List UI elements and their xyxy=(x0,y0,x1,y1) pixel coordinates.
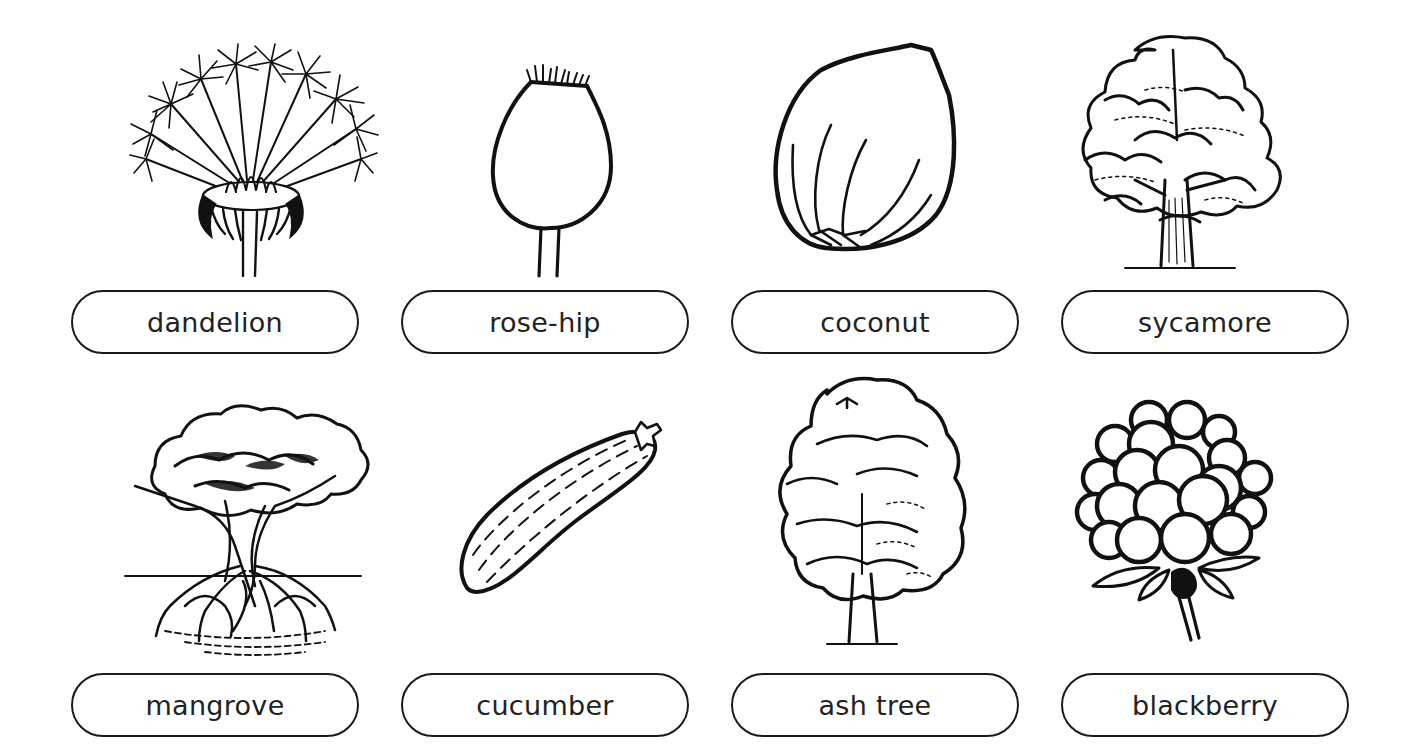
label-coconut[interactable]: coconut xyxy=(731,290,1019,354)
label-cucumber[interactable]: cucumber xyxy=(401,673,689,737)
label-text: blackberry xyxy=(1132,690,1278,721)
label-dandelion[interactable]: dandelion xyxy=(71,290,359,354)
coconut-icon xyxy=(771,40,961,255)
label-text: sycamore xyxy=(1138,307,1272,338)
mangrove-tree-icon xyxy=(125,406,369,656)
label-sycamore[interactable]: sycamore xyxy=(1061,290,1349,354)
label-rose-hip[interactable]: rose-hip xyxy=(401,290,689,354)
blackberry-icon xyxy=(1079,400,1279,642)
ash-tree-icon xyxy=(767,374,963,650)
label-text: mangrove xyxy=(145,690,284,721)
label-ash-tree[interactable]: ash tree xyxy=(731,673,1019,737)
rose-hip-icon xyxy=(487,56,619,278)
label-blackberry[interactable]: blackberry xyxy=(1061,673,1349,737)
label-text: cucumber xyxy=(476,690,613,721)
cucumber-icon xyxy=(457,420,671,600)
label-text: rose-hip xyxy=(489,307,601,338)
label-text: dandelion xyxy=(147,307,283,338)
sycamore-tree-icon xyxy=(1065,30,1287,272)
dandelion-icon xyxy=(131,44,371,276)
label-text: coconut xyxy=(820,307,930,338)
label-text: ash tree xyxy=(818,690,931,721)
label-mangrove[interactable]: mangrove xyxy=(71,673,359,737)
